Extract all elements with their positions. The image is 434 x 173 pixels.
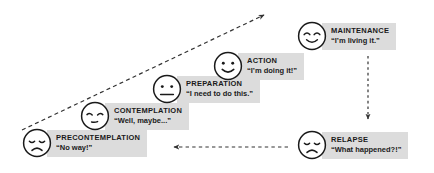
stage-name: MAINTENANCE (331, 26, 389, 36)
pensive-face-icon (80, 101, 110, 131)
smiling-face-icon (213, 51, 243, 81)
stage-quote: “I’m living it.” (331, 36, 389, 46)
stage-quote: “What happened?!” (331, 145, 401, 155)
stage-label-box: MAINTENANCE “I’m living it.” (322, 23, 396, 50)
stage-name: ACTION (247, 56, 297, 66)
stage-label-box: ACTION “I’m doing it!” (238, 53, 304, 80)
stage-name: PRECONTEMPLATION (56, 133, 140, 143)
stage-label-box: PRECONTEMPLATION “No way!” (47, 130, 147, 157)
stage-quote: “No way!” (56, 143, 140, 153)
stage-quote: “Well, maybe...” (114, 116, 182, 126)
neutral-face-icon (152, 74, 182, 104)
stage-maintenance[interactable]: MAINTENANCE “I’m living it.” (297, 21, 396, 51)
stage-action[interactable]: ACTION “I’m doing it!” (213, 51, 304, 81)
sad-face-icon (22, 128, 52, 158)
stage-relapse[interactable]: RELAPSE “What happened?!” (297, 130, 408, 160)
sad-face-icon (297, 130, 327, 160)
stage-contemplation[interactable]: CONTEMPLATION “Well, maybe...” (80, 101, 189, 131)
stages-of-change-diagram: PRECONTEMPLATION “No way!” CONTEMPLATION… (0, 0, 434, 173)
stage-name: CONTEMPLATION (114, 106, 182, 116)
stage-quote: “I’m doing it!” (247, 66, 297, 76)
stage-name: RELAPSE (331, 135, 401, 145)
stage-label-box: CONTEMPLATION “Well, maybe...” (105, 103, 189, 130)
stage-quote: “I need to do this.” (186, 89, 253, 99)
stage-label-box: RELAPSE “What happened?!” (322, 132, 408, 159)
stage-precontemplation[interactable]: PRECONTEMPLATION “No way!” (22, 128, 147, 158)
content-face-icon (297, 21, 327, 51)
